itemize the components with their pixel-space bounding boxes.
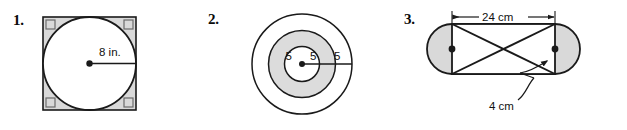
figure-2-drawing: 5 5 5 — [200, 0, 400, 130]
figure-3-drawing: 24 cm 4 cm — [400, 0, 627, 130]
radius-label: 8 in. — [99, 46, 121, 58]
figure-1-drawing: 8 in. — [0, 0, 200, 130]
right-center-dot — [552, 46, 559, 53]
center-dot — [86, 60, 92, 66]
left-center-dot — [449, 46, 456, 53]
figure-2-concentric-circles: 2. 5 5 5 — [200, 0, 400, 130]
inner-segment-label: 5 — [286, 50, 292, 62]
center-dot — [299, 61, 305, 67]
leader-line — [518, 78, 534, 100]
height-label: 4 cm — [489, 100, 514, 112]
figure-3-stadium-with-diagonals: 3. 24 cm 4 — [400, 0, 627, 130]
middle-segment-label: 5 — [310, 50, 316, 62]
figure-1-circle-in-square: 1. 8 in. — [0, 0, 200, 130]
width-label: 24 cm — [482, 11, 513, 23]
outer-segment-label: 5 — [334, 50, 340, 62]
